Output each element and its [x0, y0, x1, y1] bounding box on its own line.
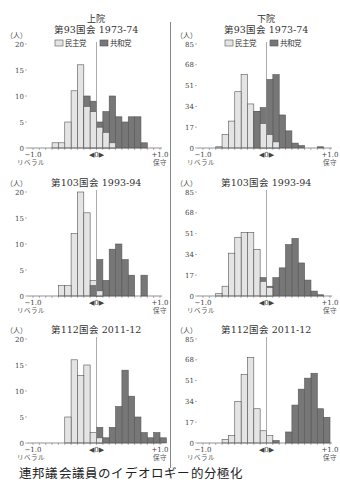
y-tick-label: 20	[15, 41, 24, 49]
bar-democrat	[77, 65, 83, 148]
bar-democrat	[58, 286, 64, 296]
bar-democrat	[241, 75, 247, 148]
x-max-label: +1.0	[152, 299, 169, 307]
chart-title: 第93国会 1973-74	[54, 24, 139, 35]
y-tick-label: 10	[15, 241, 24, 249]
bar-republican	[103, 280, 109, 296]
y-tick-label: 34	[185, 398, 194, 406]
x-max-label: +1.0	[152, 151, 169, 159]
y-unit-label: （人）	[176, 32, 197, 40]
bar-democrat	[65, 286, 71, 296]
bar-republican	[286, 131, 292, 148]
y-tick-label: 68	[185, 209, 194, 217]
y-unit-label: （人）	[176, 180, 197, 188]
bar-republican	[254, 111, 260, 148]
legend-dem-swatch	[55, 40, 63, 46]
chart-title: 第93国会 1973-74	[224, 24, 309, 35]
bar-democrat	[241, 232, 247, 296]
figure-caption: 連邦議会議員のイデオロギー的分極化	[19, 463, 243, 482]
bar-democrat	[97, 438, 103, 443]
chart-title: 第103国会 1993-94	[51, 177, 142, 188]
bar-republican	[273, 278, 279, 296]
bar-republican	[116, 407, 122, 443]
bar-democrat	[84, 106, 90, 148]
bar-democrat	[84, 365, 90, 443]
y-tick-label: 85	[185, 336, 194, 344]
bar-republican	[311, 373, 317, 443]
bar-democrat	[77, 375, 83, 443]
bar-democrat	[222, 286, 228, 296]
histogram-4: 第103国会 1993-94（人）01734516885−1.0リベラル◀0▶+…	[170, 160, 340, 330]
y-unit-label: （人）	[6, 32, 27, 40]
x-zero-label: ◀0▶	[259, 151, 275, 159]
y-tick-label: 51	[185, 82, 194, 90]
legend-rep-label: 共和党	[280, 38, 302, 48]
bar-republican	[128, 396, 134, 443]
bar-republican	[279, 115, 285, 148]
y-tick-label: 0	[20, 145, 24, 153]
bar-republican	[298, 389, 304, 443]
y-tick-label: 85	[185, 41, 194, 49]
bar-republican	[311, 291, 317, 296]
y-tick-label: 17	[185, 124, 194, 132]
chart-title: 第103国会 1993-94	[221, 177, 312, 188]
bar-republican	[90, 286, 96, 296]
y-unit-label: （人）	[6, 327, 27, 335]
bar-democrat	[52, 143, 58, 148]
bar-republican	[109, 96, 115, 148]
bar-democrat	[65, 122, 71, 148]
y-tick-label: 20	[15, 189, 24, 197]
bar-republican	[160, 438, 166, 443]
legend-rep-label: 共和党	[110, 38, 132, 48]
bar-democrat	[241, 374, 247, 443]
bar-republican	[279, 268, 285, 296]
x-min-label: −1.0	[195, 151, 212, 159]
bar-republican	[109, 249, 115, 296]
liberal-label: リベラル	[187, 454, 215, 462]
bar-democrat	[260, 431, 266, 443]
legend-rep-swatch	[270, 40, 278, 46]
bar-republican	[273, 75, 279, 148]
bar-republican	[305, 280, 311, 296]
y-tick-label: 0	[190, 293, 194, 301]
bar-democrat	[267, 436, 273, 443]
y-tick-label: 85	[185, 189, 194, 197]
x-max-label: +1.0	[322, 446, 339, 454]
chart-title: 第112国会 2011-12	[51, 324, 142, 335]
y-tick-label: 51	[185, 230, 194, 238]
bar-democrat	[247, 357, 253, 443]
bar-democrat	[228, 121, 234, 148]
histogram-5: 第112国会 2011-12（人）05101520−1.0リベラル◀0▶+1.0…	[0, 307, 170, 477]
bar-democrat	[235, 401, 241, 443]
bar-democrat	[247, 104, 253, 148]
bar-republican	[298, 146, 304, 148]
bar-republican	[128, 117, 134, 148]
bar-democrat	[97, 291, 103, 296]
bar-republican	[286, 432, 292, 443]
histogram-1: 上院第93国会 1973-74民主党共和党（人）05101520−1.0リベラル…	[0, 0, 170, 170]
bar-republican	[147, 438, 153, 443]
bar-republican	[292, 143, 298, 148]
conservative-label: 保守	[323, 453, 337, 462]
bar-democrat	[109, 143, 115, 148]
bar-democrat	[247, 232, 253, 296]
y-unit-label: （人）	[6, 180, 27, 188]
x-max-label: +1.0	[152, 446, 169, 454]
bar-democrat	[65, 417, 71, 443]
bar-republican	[122, 370, 128, 443]
x-zero-label: ◀0▶	[89, 151, 105, 159]
bar-republican	[305, 378, 311, 443]
legend-rep-swatch	[100, 40, 108, 46]
x-zero-label: ◀0▶	[89, 299, 105, 307]
y-tick-label: 0	[20, 293, 24, 301]
bar-democrat	[77, 192, 83, 296]
chart-title: 第112国会 2011-12	[221, 324, 312, 335]
x-max-label: +1.0	[322, 151, 339, 159]
bar-republican	[116, 244, 122, 296]
bar-democrat	[90, 112, 96, 148]
bar-republican	[154, 433, 160, 443]
bar-republican	[103, 438, 109, 443]
chamber-label: 下院	[257, 13, 275, 24]
y-tick-label: 51	[185, 377, 194, 385]
y-tick-label: 17	[185, 272, 194, 280]
